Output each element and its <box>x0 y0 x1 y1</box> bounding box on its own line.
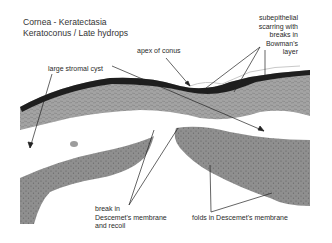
scarring-line-1: subepithelial <box>238 14 298 23</box>
label-large-stromal-cyst: large stromal cyst <box>48 65 103 74</box>
posterior-stroma-right <box>175 127 310 206</box>
label-break-in-descemets: break in Descemet's membrane and recoil <box>95 205 167 231</box>
break-line-3: and recoil <box>95 222 167 231</box>
scarring-line-5: layer <box>238 48 298 57</box>
micrograph-figure: Cornea - Keratectasia Keratoconus / Late… <box>0 0 332 243</box>
break-line-1: break in <box>95 205 167 214</box>
label-subepithelial-scarring: subepithelial scarring with breaks in Bo… <box>238 14 298 57</box>
label-folds-in-descemets: folds in Descemet's membrane <box>192 214 288 223</box>
scarring-line-3: breaks in <box>238 31 298 40</box>
scarring-line-4: Bowman's <box>238 40 298 49</box>
break-line-2: Descemet's membrane <box>95 214 167 223</box>
figure-title: Cornea - Keratectasia Keratoconus / Late… <box>23 17 128 38</box>
label-apex-of-conus: apex of conus <box>137 47 181 56</box>
scarring-line-2: scarring with <box>238 23 298 32</box>
title-line-2: Keratoconus / Late hydrops <box>23 28 128 39</box>
title-line-1: Cornea - Keratectasia <box>23 17 128 28</box>
